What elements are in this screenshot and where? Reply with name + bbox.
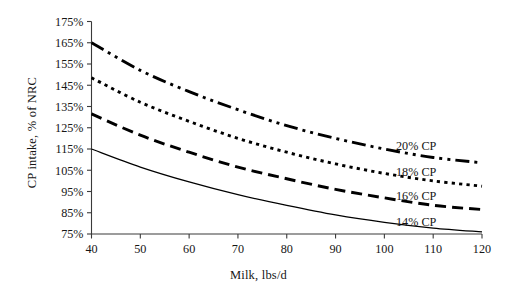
y-axis-title: CP intake, % of NRC	[25, 38, 40, 228]
x-tick-label: 110	[424, 242, 442, 256]
y-tick-label: 115%	[56, 142, 84, 156]
line-chart-canvas: 75%85%95%105%115%125%135%145%155%165%175…	[0, 0, 517, 298]
series-inline-labels: 20% CP18% CP16% CP14% CP	[396, 139, 437, 229]
x-tick-label: 100	[375, 242, 393, 256]
series-label-20-cp: 20% CP	[396, 139, 437, 153]
y-tick-label: 125%	[55, 121, 83, 135]
x-axis-tick-marks	[92, 234, 483, 239]
chart-figure: 75%85%95%105%115%125%135%145%155%165%175…	[0, 0, 517, 298]
x-tick-label: 70	[232, 242, 244, 256]
y-tick-label: 135%	[55, 100, 83, 114]
series-label-18-cp: 18% CP	[396, 165, 437, 179]
x-axis-tick-labels: 405060708090100110120	[85, 242, 491, 256]
x-axis-title: Milk, lbs/d	[0, 268, 517, 283]
y-tick-label: 165%	[55, 36, 83, 50]
x-tick-label: 120	[473, 242, 491, 256]
y-tick-label: 175%	[55, 15, 83, 29]
data-series-curves	[92, 43, 483, 232]
y-axis-tick-marks	[87, 22, 92, 235]
x-tick-label: 90	[329, 242, 341, 256]
y-tick-label: 75%	[61, 227, 83, 241]
x-tick-label: 40	[85, 242, 97, 256]
y-axis-tick-labels: 75%85%95%105%115%125%135%145%155%165%175…	[55, 15, 83, 242]
y-tick-label: 85%	[61, 206, 83, 220]
x-tick-label: 60	[183, 242, 195, 256]
y-tick-label: 95%	[61, 185, 83, 199]
y-tick-label: 155%	[55, 57, 83, 71]
x-tick-label: 80	[281, 242, 293, 256]
y-tick-label: 105%	[55, 164, 83, 178]
y-tick-label: 145%	[55, 79, 83, 93]
x-tick-label: 50	[134, 242, 146, 256]
series-label-16-cp: 16% CP	[396, 189, 437, 203]
series-label-14-cp: 14% CP	[396, 215, 437, 229]
